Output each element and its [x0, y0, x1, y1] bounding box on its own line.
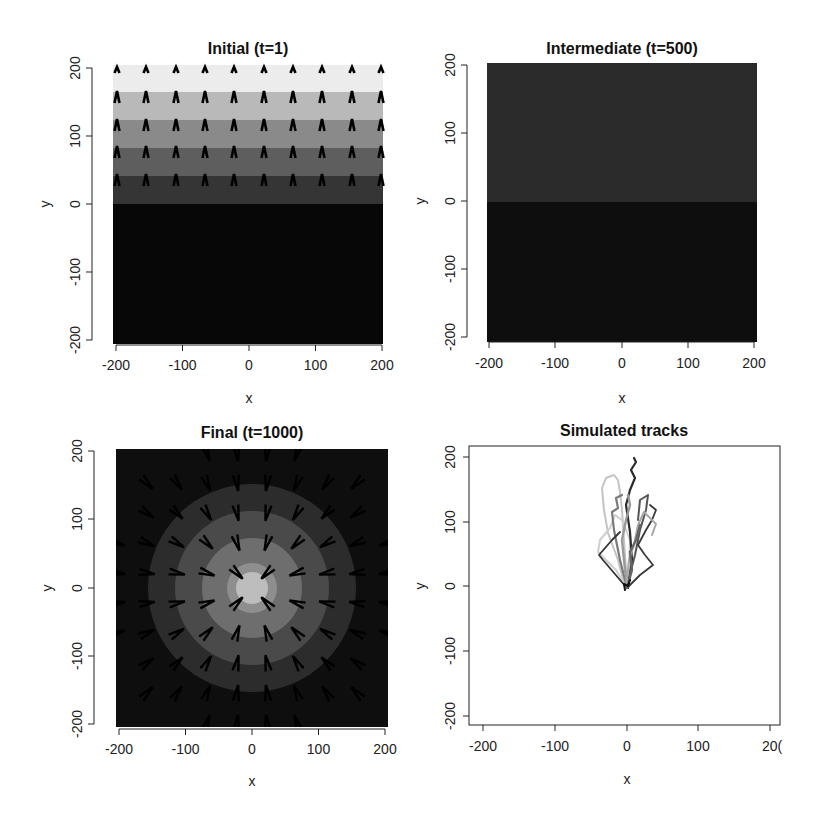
- svg-text:-200: -200: [67, 326, 83, 354]
- svg-text:200: 200: [69, 439, 85, 463]
- svg-text:100: 100: [69, 507, 85, 531]
- x-axis-label: x: [619, 390, 626, 406]
- svg-text:-200: -200: [442, 702, 458, 730]
- svg-text:0: 0: [618, 355, 626, 371]
- panel-title: Intermediate (t=500): [546, 40, 698, 57]
- y-axis: [463, 457, 469, 716]
- svg-text:200: 200: [742, 355, 766, 371]
- x-tick-labels: -200 -100 0 100 200: [105, 741, 397, 757]
- y-tick-labels: 200 100 0 -100 -200: [442, 445, 458, 730]
- panel-simulated-tracks: Simulated tracks 200 100 0 -100: [412, 422, 782, 787]
- heatmap-bands: [113, 65, 383, 344]
- heatmap-rings: [116, 449, 388, 727]
- svg-text:-200: -200: [102, 357, 130, 373]
- y-axis-label: y: [39, 585, 55, 592]
- x-tick-labels: -200 -100 0 100 20(: [469, 738, 782, 754]
- svg-text:100: 100: [676, 355, 700, 371]
- svg-text:0: 0: [442, 197, 458, 205]
- figure: Initial (t=1) 200 100 0 -100 -200: [0, 0, 819, 818]
- x-tick-labels: -200 -100 0 100 200: [475, 355, 766, 371]
- svg-text:0: 0: [623, 738, 631, 754]
- svg-text:-200: -200: [469, 738, 497, 754]
- svg-text:-100: -100: [442, 255, 458, 283]
- x-axis-label: x: [249, 773, 256, 789]
- svg-text:-100: -100: [171, 741, 199, 757]
- svg-text:200: 200: [442, 53, 458, 77]
- svg-text:-100: -100: [442, 637, 458, 665]
- svg-text:200: 200: [370, 357, 394, 373]
- svg-text:-200: -200: [69, 710, 85, 738]
- x-axis: [116, 345, 382, 351]
- y-axis-label: y: [412, 583, 428, 590]
- svg-text:100: 100: [307, 741, 331, 757]
- x-axis-label: x: [624, 771, 631, 787]
- svg-text:0: 0: [245, 357, 253, 373]
- y-axis: [461, 65, 467, 337]
- y-axis: [88, 451, 94, 724]
- svg-text:-200: -200: [442, 323, 458, 351]
- y-tick-labels: 200 100 0 -100 -200: [67, 56, 83, 354]
- svg-text:100: 100: [686, 738, 710, 754]
- x-axis-label: x: [246, 390, 253, 406]
- y-axis-label: y: [37, 201, 53, 208]
- svg-text:200: 200: [442, 445, 458, 469]
- svg-text:-100: -100: [67, 258, 83, 286]
- svg-text:-100: -100: [541, 738, 569, 754]
- svg-text:200: 200: [67, 56, 83, 80]
- panel-final: Final (t=1000) 200 100 0 -100 -200: [39, 424, 397, 789]
- x-axis: [489, 342, 754, 348]
- panel-title: Final (t=1000): [201, 424, 304, 441]
- panel-intermediate: Intermediate (t=500) 200 100 0 -100 -200: [412, 40, 766, 406]
- panel-title: Simulated tracks: [560, 422, 688, 439]
- panel-title: Initial (t=1): [208, 40, 288, 57]
- svg-text:100: 100: [442, 510, 458, 534]
- svg-text:0: 0: [67, 200, 83, 208]
- svg-text:-100: -100: [541, 355, 569, 371]
- svg-text:-200: -200: [105, 741, 133, 757]
- y-tick-labels: 200 100 0 -100 -200: [442, 53, 458, 351]
- y-axis-label: y: [412, 198, 428, 205]
- y-axis: [86, 68, 92, 340]
- heatmap-bands: [487, 63, 757, 342]
- svg-text:100: 100: [304, 357, 328, 373]
- y-tick-labels: 200 100 0 -100 -200: [69, 439, 85, 738]
- svg-text:100: 100: [442, 121, 458, 145]
- svg-text:0: 0: [442, 582, 458, 590]
- svg-text:200: 200: [373, 741, 397, 757]
- svg-text:0: 0: [248, 741, 256, 757]
- svg-text:100: 100: [67, 124, 83, 148]
- svg-text:-100: -100: [168, 357, 196, 373]
- svg-text:0: 0: [69, 584, 85, 592]
- x-tick-labels: -200 -100 0 100 200: [102, 357, 394, 373]
- x-axis: [483, 725, 770, 731]
- svg-text:-200: -200: [475, 355, 503, 371]
- svg-text:20(: 20(: [762, 738, 783, 754]
- x-axis: [119, 729, 385, 735]
- panel-initial: Initial (t=1) 200 100 0 -100 -200: [37, 40, 394, 406]
- svg-text:-100: -100: [69, 642, 85, 670]
